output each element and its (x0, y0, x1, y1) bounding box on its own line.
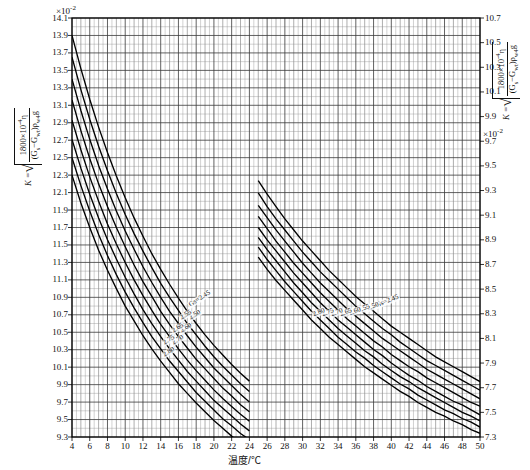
right-axis-tick: 10.7 (485, 14, 525, 23)
right-axis-tick: 9.1 (485, 211, 525, 220)
right-axis-tick: 9.5 (485, 161, 525, 170)
x-axis-title: 温度/℃ (228, 452, 261, 467)
formula-denominator-right: (Gs−Gwt)ρw4g (508, 42, 519, 96)
formula-k-equals: K = (23, 172, 33, 186)
radicand-right: 1800×10-4η(Gs−Gwt)ρw4g (492, 42, 520, 99)
left-axis-tick: 11.1 (30, 275, 68, 284)
left-axis-tick: 10.5 (30, 328, 68, 337)
formula-denominator: (Gs−Gwt)ρw4g (30, 108, 41, 162)
radical-sign-right: √ (501, 98, 511, 106)
left-axis-formula: K =√1800×10-4η(Gs−Gwt)ρw4g (14, 108, 42, 186)
left-axis-tick: 9.9 (30, 380, 68, 389)
right-axis-tick: 9.7 (485, 137, 525, 146)
radical-sign: √ (23, 164, 33, 172)
left-axis-tick: 13.3 (30, 83, 68, 92)
right-axis-tick: 8.1 (485, 334, 525, 343)
right-axis-tick: 8.7 (485, 260, 525, 269)
left-axis-tick: 11.9 (30, 206, 68, 215)
left-axis-tick: 9.7 (30, 398, 68, 407)
left-axis-tick: 13.7 (30, 48, 68, 57)
left-axis-tick: 11.3 (30, 258, 68, 267)
x-axis-tick: 50 (470, 442, 490, 451)
left-axis-tick: 13.9 (30, 31, 68, 40)
formula-k-equals-right: K = (501, 106, 511, 120)
left-axis-tick: 12.1 (30, 188, 68, 197)
left-axis-tick: 14.1 (30, 14, 68, 23)
formula-numerator-right: 1800×10-4η (494, 42, 508, 96)
right-axis-tick: 7.9 (485, 359, 525, 368)
left-axis-tick: 9.3 (30, 433, 68, 442)
right-axis-formula: K =√1800×10-4η(Gs−Gwt)ρw4g (492, 42, 520, 120)
left-axis-tick: 10.1 (30, 363, 68, 372)
formula-numerator: 1800×10-4η (16, 108, 30, 162)
right-axis-tick: 8.3 (485, 309, 525, 318)
left-axis-tick: 10.7 (30, 310, 68, 319)
left-axis-tick: 10.9 (30, 293, 68, 302)
left-axis-tick: 10.3 (30, 345, 68, 354)
left-axis-tick: 11.7 (30, 223, 68, 232)
right-axis-tick: 9.3 (485, 186, 525, 195)
right-axis-tick: 8.9 (485, 235, 525, 244)
right-axis-tick: 7.7 (485, 383, 525, 392)
chart-root: ×10-2 14.113.913.713.513.313.112.912.712… (0, 0, 530, 470)
radicand: 1800×10-4η(Gs−Gwt)ρw4g (14, 108, 42, 165)
left-axis-tick: 13.5 (30, 66, 68, 75)
right-axis-tick: 7.5 (485, 408, 525, 417)
left-axis-tick: 9.5 (30, 415, 68, 424)
left-axis-tick: 11.5 (30, 240, 68, 249)
right-axis-tick: 7.3 (485, 433, 525, 442)
right-axis-tick: 8.5 (485, 285, 525, 294)
nomogram-plot (0, 0, 530, 470)
